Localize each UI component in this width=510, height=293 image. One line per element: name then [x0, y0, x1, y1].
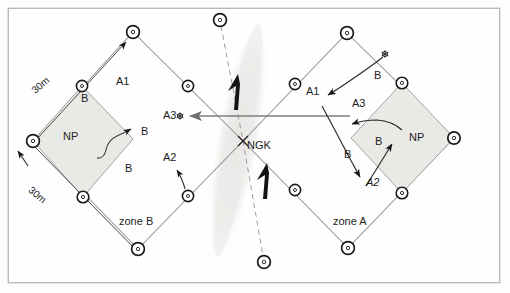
a2-arrow-left — [177, 170, 185, 189]
zone-label-left: zone B — [119, 216, 153, 227]
route-label-left-a1: A1 — [116, 76, 129, 87]
route-label-left-a3: A3 — [163, 110, 176, 121]
ball-label-left-1: B — [81, 93, 88, 104]
ball-label-right-3: B — [344, 149, 351, 160]
zone-label-right: zone A — [333, 216, 367, 227]
ball-label-left-2: B — [141, 126, 148, 137]
ball-label-right-2: B — [375, 136, 382, 147]
np-label-right: NP — [409, 132, 424, 143]
route-label-right-a3: A3 — [352, 98, 365, 109]
flag-cursor-lower — [257, 163, 269, 199]
ball-label-left-3: B — [125, 163, 132, 174]
ball-label-right-1: B — [374, 70, 381, 81]
a3-asterisk-marker-left — [177, 112, 184, 119]
route-label-left-a2: A2 — [163, 152, 176, 163]
route-label-right-a1: A1 — [306, 86, 319, 97]
west-short-arrow-left — [18, 151, 28, 166]
route-label-right-a2: A2 — [366, 177, 379, 188]
np-label-left: NP — [63, 131, 78, 142]
serve-asterisk-marker-right — [382, 50, 389, 57]
center-label-ngk: NGK — [247, 140, 271, 151]
diagram-page: 30m 30m A1 B B B A2 A3 NP zone B A1 A3 A… — [0, 0, 510, 293]
